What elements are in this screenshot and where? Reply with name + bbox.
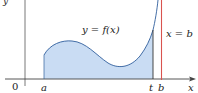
t-label: t: [149, 82, 154, 93]
asymptote-label: x = b: [166, 28, 193, 39]
b-label: b: [158, 82, 164, 93]
improper-integral-diagram: y y = f(x) x = b 0 a t b x: [0, 0, 198, 93]
y-axis-label: y: [2, 0, 9, 6]
curve-label: y = f(x): [81, 24, 120, 35]
x-axis-label: x: [188, 82, 194, 93]
origin-label: 0: [12, 81, 18, 92]
shaded-area: [44, 30, 153, 79]
a-label: a: [41, 82, 47, 93]
